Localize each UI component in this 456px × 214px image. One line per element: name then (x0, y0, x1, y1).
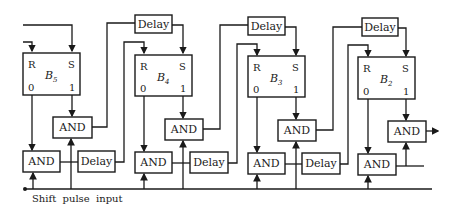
svg-text:AND: AND (27, 155, 55, 168)
svg-text:AND: AND (252, 157, 280, 170)
flip-flop-b5: R S B5 0 1 (23, 53, 80, 95)
svg-text:0: 0 (363, 86, 369, 97)
svg-text:R: R (140, 61, 148, 72)
svg-text:S: S (68, 59, 75, 70)
svg-text:AND: AND (283, 124, 311, 137)
svg-text:R: R (28, 59, 36, 70)
shift-pulse-input-label: Shift pulse input (32, 193, 123, 204)
upper-and-3: AND (278, 120, 316, 141)
top-delay-2: Delay (248, 17, 285, 35)
svg-text:AND: AND (393, 125, 421, 138)
svg-text:Delay: Delay (138, 18, 170, 31)
svg-text:1: 1 (180, 83, 186, 94)
svg-text:Delay: Delay (251, 20, 283, 33)
lower-and-3: AND (248, 153, 285, 174)
svg-text:1: 1 (69, 82, 75, 93)
b5-input-wires (23, 25, 72, 51)
svg-text:S: S (179, 61, 186, 72)
svg-text:R: R (363, 63, 371, 74)
bottom-delay-3: Delay (302, 153, 340, 174)
flip-flop-b2: R S B2 0 1 (358, 57, 415, 99)
bottom-delay-1: Delay (78, 151, 115, 172)
bottom-delay-2: Delay (190, 152, 228, 173)
upper-and-4: AND (165, 119, 203, 140)
svg-text:Delay: Delay (193, 156, 225, 169)
svg-text:Delay: Delay (364, 21, 396, 34)
lower-and-2: AND (358, 154, 396, 175)
svg-text:AND: AND (170, 123, 198, 136)
lower-and-5: AND (23, 151, 60, 172)
svg-text:R: R (253, 62, 261, 73)
svg-text:S: S (292, 62, 299, 73)
svg-text:0: 0 (28, 82, 34, 93)
lower-and-4: AND (135, 152, 172, 173)
svg-text:AND: AND (139, 156, 167, 169)
svg-text:1: 1 (293, 84, 299, 95)
svg-text:Delay: Delay (305, 157, 337, 170)
svg-text:Delay: Delay (81, 155, 113, 168)
svg-text:0: 0 (140, 83, 146, 94)
top-delay-3: Delay (362, 18, 398, 36)
svg-text:S: S (402, 63, 409, 74)
svg-text:1: 1 (403, 86, 409, 97)
upper-and-5: AND (53, 117, 92, 138)
flip-flop-b3: R S B3 0 1 (248, 56, 305, 97)
svg-text:0: 0 (253, 84, 259, 95)
flip-flop-b4: R S B4 0 1 (135, 55, 192, 96)
upper-and-2: AND (388, 121, 426, 142)
svg-text:AND: AND (363, 158, 391, 171)
top-delay-1: Delay (135, 15, 172, 33)
shift-register-diagram: R S B5 0 1 AND AND Delay Delay R S B4 0 … (0, 0, 456, 214)
svg-text:AND: AND (58, 121, 86, 134)
